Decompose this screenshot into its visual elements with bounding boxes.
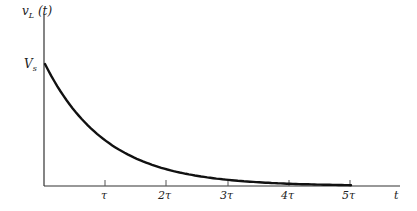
exponential-decay-curve (45, 64, 351, 185)
tick-label-5: 5τ (342, 189, 355, 202)
tick-label-3: 3τ (220, 189, 233, 202)
tick-label-2: 2τ (158, 189, 171, 202)
decay-plot (0, 0, 417, 211)
vs-label: Vs (24, 57, 37, 73)
tick-label-1: τ (101, 189, 107, 202)
x-axis-label: t (394, 189, 398, 202)
y-axis-label: vL (t) (22, 4, 52, 20)
tick-label-4: 4τ (281, 189, 294, 202)
